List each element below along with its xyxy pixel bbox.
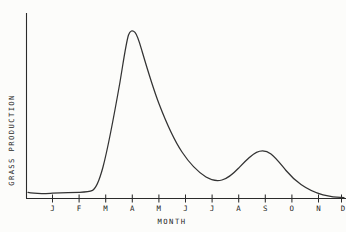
x-tick-label-apr: A <box>130 204 135 213</box>
x-tick-label-jul: J <box>210 204 215 213</box>
x-tick-label-jun: J <box>183 204 188 213</box>
x-tick-label-sep: S <box>263 204 268 213</box>
x-tick-label-feb: F <box>77 204 82 213</box>
x-tick-label-dec: D <box>341 204 346 213</box>
grass-production-line-chart: J F M A M J J A S O N D MONTH GRASS PROD… <box>0 0 346 232</box>
y-axis-title: GRASS PRODUCTION <box>7 94 16 186</box>
x-axis-title: MONTH <box>157 217 186 226</box>
chart-svg: J F M A M J J A S O N D MONTH GRASS PROD… <box>0 0 346 232</box>
x-tick-label-aug: A <box>236 204 241 213</box>
x-tick-label-oct: O <box>290 204 295 213</box>
x-tick-label-may: M <box>157 204 162 213</box>
chart-background <box>0 0 346 232</box>
x-tick-label-mar: M <box>103 204 108 213</box>
x-tick-label-jan: J <box>50 204 55 213</box>
x-tick-label-nov: N <box>316 204 321 213</box>
